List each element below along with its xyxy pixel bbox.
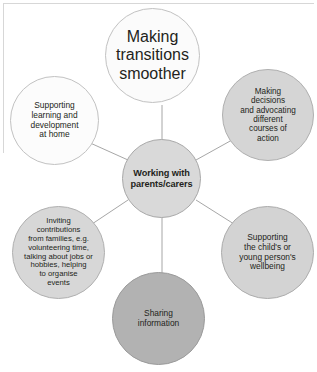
node-label: Making decisions and advocating differen…	[236, 87, 300, 143]
node-center-working-with-parents-carers[interactable]: Working with parents/carers	[122, 139, 201, 218]
connector-center-left-top	[88, 142, 128, 160]
node-label: Supporting the child's or young person's…	[235, 233, 300, 271]
node-making-transitions-smoother[interactable]: Making transitions smoother	[105, 8, 200, 103]
node-label: Inviting contributions from families, e.…	[23, 217, 94, 288]
node-label: Sharing information	[134, 309, 183, 328]
node-sharing-information[interactable]: Sharing information	[112, 272, 205, 365]
diagram-canvas: Making transitions smoother Making decis…	[0, 0, 317, 372]
node-label: Supporting learning and development at h…	[27, 101, 83, 139]
node-supporting-learning-at-home[interactable]: Supporting learning and development at h…	[10, 76, 99, 165]
connector-center-left-bottom	[92, 200, 128, 224]
connector-center-right-top	[196, 140, 232, 160]
node-label: Working with parents/carers	[127, 168, 197, 189]
node-label: Making transitions smoother	[112, 28, 193, 83]
connector-center-right-bottom	[196, 200, 234, 224]
node-supporting-wellbeing[interactable]: Supporting the child's or young person's…	[221, 206, 314, 299]
node-inviting-contributions[interactable]: Inviting contributions from families, e.…	[12, 206, 105, 299]
node-making-decisions-advocating[interactable]: Making decisions and advocating differen…	[222, 69, 314, 161]
